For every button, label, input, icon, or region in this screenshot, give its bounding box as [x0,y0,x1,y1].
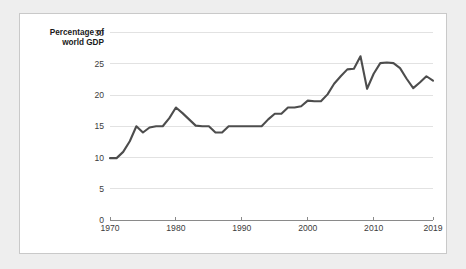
y-tick-label: 20 [94,90,104,100]
y-tick-label: 25 [94,59,104,69]
x-tick-label: 1990 [232,223,251,233]
line-chart: 051015202530 197019801990200020102019 Pe… [20,14,448,255]
y-tick-label: 10 [94,153,104,163]
data-series-line [110,56,433,158]
gridlines [110,33,433,189]
y-tick-label: 5 [99,184,104,194]
x-tick-label: 1970 [100,223,119,233]
y-axis-tick-labels: 051015202530 [94,28,104,226]
chart-card: 051015202530 197019801990200020102019 Pe… [19,13,447,254]
x-axis-tick-labels: 197019801990200020102019 [100,223,442,233]
x-tick-label: 2019 [423,223,442,233]
x-tick-label: 2000 [298,223,317,233]
x-tick-label: 2010 [364,223,383,233]
y-axis-title-line1: Percentage of [50,28,104,37]
y-tick-label: 15 [94,121,104,131]
x-tick-label: 1980 [166,223,185,233]
x-axis [110,217,433,221]
y-axis-title-line2: world GDP [61,38,104,47]
